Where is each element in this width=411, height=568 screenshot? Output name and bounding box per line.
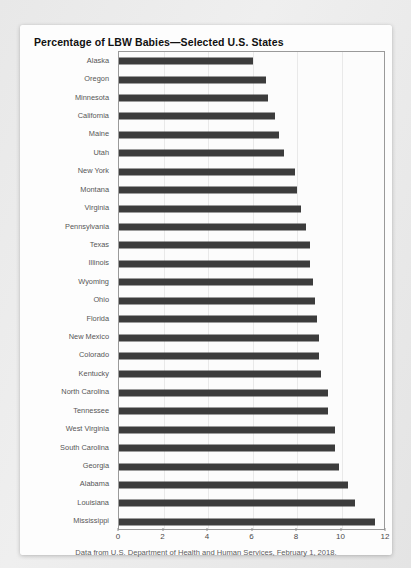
y-axis-tick-label: Illinois [20,254,114,272]
bar-row [119,218,384,236]
bar [119,187,297,194]
y-axis-tick-label: West Virginia [20,419,114,437]
x-axis-tick-mark [207,528,208,531]
bar [119,316,317,323]
y-axis-tick-label: Wyoming [20,272,114,290]
bar [119,168,295,175]
bar [119,131,279,138]
bar [119,500,355,507]
bar [119,481,348,488]
bar-row [119,181,384,199]
bar-row [119,420,384,438]
bar [119,518,375,525]
bar-row [119,107,384,125]
bar-row [119,70,384,88]
bar-row [119,365,384,383]
bar [119,352,319,359]
bar-row [119,347,384,365]
bar [119,463,339,470]
y-axis-tick-label: South Carolina [20,438,114,456]
bar-row [119,439,384,457]
x-axis-tick-mark [162,528,163,531]
bar [119,58,253,65]
y-axis-tick-label: Virginia [20,198,114,216]
bar-row [119,126,384,144]
x-axis-tick-mark [118,528,119,531]
bar-row [119,236,384,254]
y-axis-tick-label: Tennessee [20,401,114,419]
y-axis-tick-label: Kentucky [20,364,114,382]
y-axis-tick-label: Colorado [20,346,114,364]
y-axis-tick-label: Georgia [20,456,114,474]
bar [119,334,319,341]
bar-row [119,199,384,217]
bar-row [119,328,384,346]
x-axis-tick-label: 8 [294,532,298,541]
y-axis-tick-label: Maine [20,125,114,143]
bar-row [119,163,384,181]
bar-row [119,255,384,273]
y-axis-tick-label: California [20,106,114,124]
bar [119,426,335,433]
source-caption: Data from U.S. Department of Health and … [20,548,392,557]
x-axis-tick-mark [340,528,341,531]
bar-row [119,273,384,291]
bar [119,242,310,249]
bar-row [119,384,384,402]
bar-row [119,89,384,107]
y-axis-tick-label: Montana [20,180,114,198]
bar-row [119,457,384,475]
x-axis-tick-label: 10 [336,532,345,541]
x-axis-tick-mark [385,528,386,531]
y-axis-tick-label: Alaska [20,51,114,69]
bar [119,389,328,396]
x-axis-tick-label: 6 [249,532,253,541]
x-axis-labels: 024681012 [118,532,385,546]
bar [119,113,275,120]
y-axis-tick-label: Pennsylvania [20,217,114,235]
y-axis-tick-label: Florida [20,309,114,327]
bar-row [119,310,384,328]
y-axis-labels: AlaskaOregonMinnesotaCaliforniaMaineUtah… [20,51,114,530]
plot-area [118,51,385,530]
x-axis-tick-label: 0 [116,532,120,541]
bar [119,224,306,231]
x-axis-tick-mark [296,528,297,531]
bar-row [119,494,384,512]
bar [119,76,266,83]
y-axis-tick-label: Oregon [20,69,114,87]
bar [119,445,335,452]
y-axis-tick-label: Utah [20,143,114,161]
x-axis-tick-label: 2 [160,532,164,541]
x-axis-tick-label: 12 [381,532,390,541]
bar [119,95,268,102]
y-axis-tick-label: Louisiana [20,493,114,511]
y-axis-tick-label: Mississippi [20,512,114,530]
bar [119,205,301,212]
y-axis-tick-label: Alabama [20,475,114,493]
bar-row [119,52,384,70]
x-axis-tick-mark [251,528,252,531]
bar-row [119,144,384,162]
bar [119,371,321,378]
y-axis-tick-label: Ohio [20,291,114,309]
bar [119,260,310,267]
chart-card: Percentage of LBW Babies—Selected U.S. S… [20,25,392,555]
x-axis-tick-label: 4 [205,532,209,541]
bar [119,297,315,304]
bar [119,150,284,157]
y-axis-tick-label: New Mexico [20,327,114,345]
bar-row [119,476,384,494]
y-axis-tick-label: Texas [20,235,114,253]
y-axis-tick-label: Minnesota [20,88,114,106]
bar [119,408,328,415]
bar [119,279,313,286]
y-axis-tick-label: New York [20,162,114,180]
bar-series [119,52,384,529]
bar-row [119,402,384,420]
bar-row [119,292,384,310]
page-title: Percentage of LBW Babies—Selected U.S. S… [34,36,284,48]
y-axis-tick-label: North Carolina [20,383,114,401]
